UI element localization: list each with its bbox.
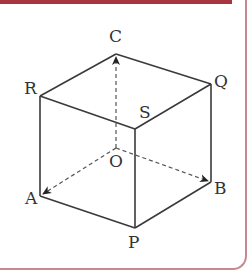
edge-p-b bbox=[135, 182, 211, 228]
label-a: A bbox=[25, 190, 37, 207]
edge-r-s bbox=[40, 96, 135, 129]
label-o: O bbox=[109, 153, 123, 170]
edge-c-q bbox=[116, 54, 211, 84]
cube-diagram bbox=[0, 0, 251, 273]
edge-c-r bbox=[40, 54, 116, 96]
vector-oa bbox=[43, 148, 116, 194]
label-b: B bbox=[214, 180, 227, 197]
label-s: S bbox=[139, 104, 151, 121]
label-p: P bbox=[128, 234, 139, 251]
label-r: R bbox=[24, 80, 37, 97]
label-c: C bbox=[109, 28, 122, 45]
label-q: Q bbox=[214, 73, 228, 90]
edge-a-p bbox=[40, 196, 135, 228]
cube-edges bbox=[40, 54, 211, 228]
vector-ob bbox=[116, 148, 208, 181]
